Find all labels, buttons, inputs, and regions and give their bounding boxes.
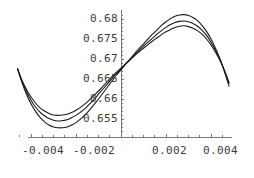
x-axis-tick-label: 0.002	[152, 144, 187, 157]
y-axis-tick-label: 0.68	[90, 12, 118, 25]
y-axis-tick-label: 0.655	[83, 112, 118, 125]
x-axis-tick-label: 0.004	[203, 144, 238, 157]
y-axis-tick-label: 0.67	[90, 52, 118, 65]
data-curve-2	[18, 21, 230, 121]
curves-group	[18, 15, 230, 128]
data-curve-1	[18, 15, 230, 128]
y-axis-tick-label: 0.66	[90, 92, 118, 105]
y-axis-tick-label: 0.675	[83, 32, 118, 45]
plot-canvas: 0.680.6750.670.6650.660.655-0.004-0.0020…	[0, 0, 254, 178]
y-axis-tick-label: 0.665	[83, 72, 118, 85]
x-axis-tick-label: -0.002	[73, 144, 115, 157]
x-axis-tick-label: -0.004	[22, 144, 64, 157]
